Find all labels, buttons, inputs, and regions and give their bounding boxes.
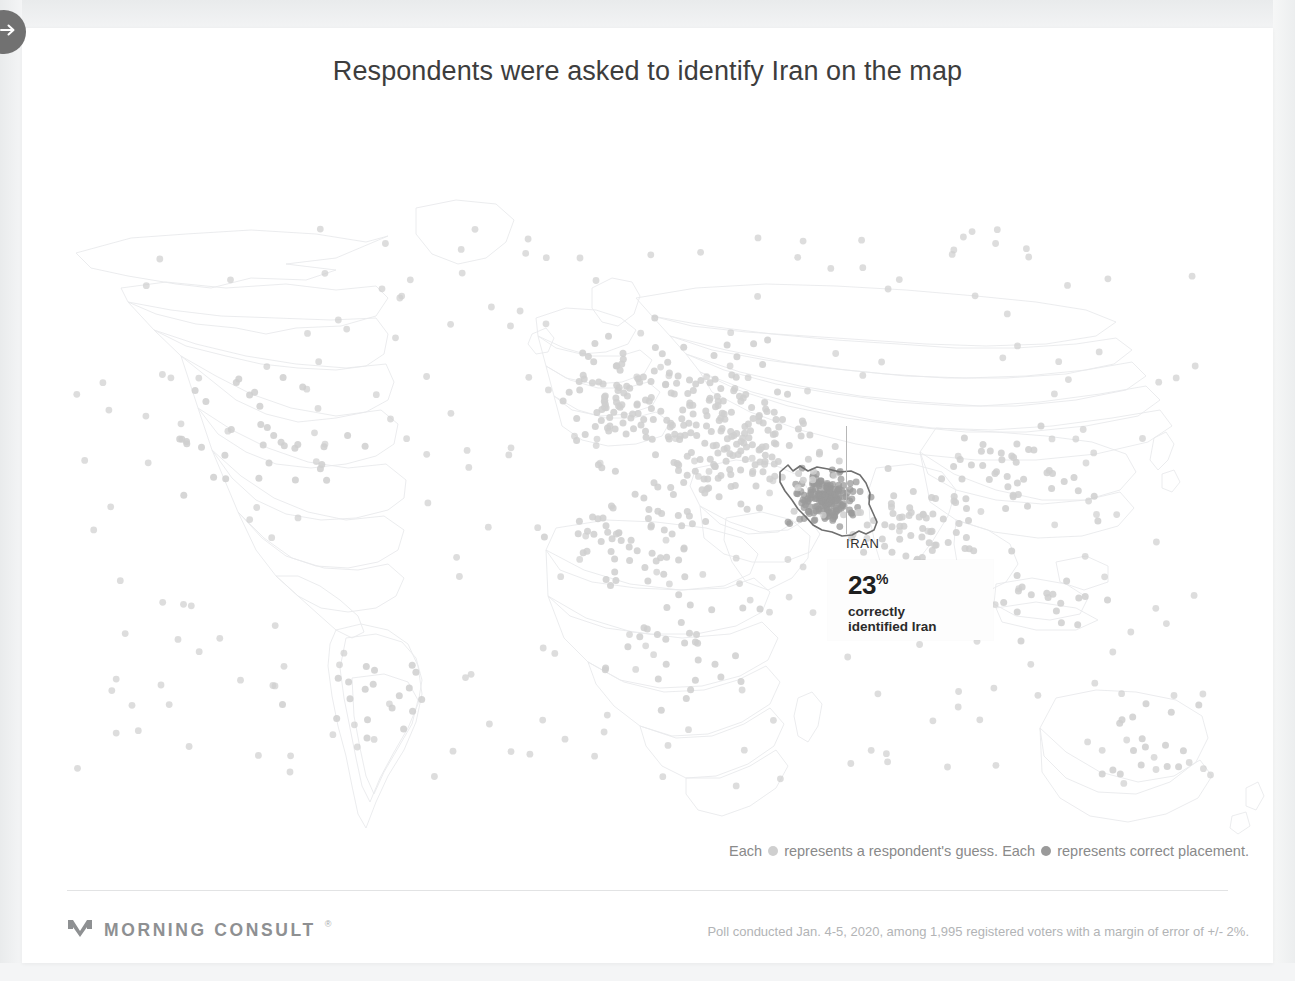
registered-mark: ®	[325, 919, 332, 929]
chart-card: Respondents were asked to identify Iran …	[22, 28, 1273, 963]
morning-consult-logo-icon	[67, 918, 93, 942]
footnote: Poll conducted Jan. 4-5, 2020, among 1,9…	[707, 924, 1249, 939]
stat-description-line2: identified Iran	[848, 619, 937, 634]
arrow-right-icon	[0, 20, 18, 44]
background-band-left	[0, 0, 22, 981]
footer-divider	[67, 890, 1228, 891]
legend-prefix: Each	[729, 843, 762, 859]
brand-lockup: MORNING CONSULT ®	[67, 918, 333, 942]
legend: Each represents a respondent's guess. Ea…	[729, 843, 1249, 859]
legend-correct-dot	[1041, 846, 1051, 856]
legend-text-guess: represents a respondent's guess. Each	[784, 843, 1035, 859]
stat-description: correctly identified Iran	[848, 604, 937, 634]
country-outlines	[76, 200, 1264, 834]
stat-callout-box: 23% correctly identified Iran	[828, 560, 993, 640]
background-band-top	[0, 0, 1295, 30]
stat-value: 23%	[848, 570, 888, 601]
background-band-right	[1273, 0, 1295, 981]
respondent-dots	[73, 226, 1214, 790]
brand-name: MORNING CONSULT	[104, 920, 316, 941]
percent-symbol: %	[876, 571, 888, 587]
annotation-leader-line	[846, 426, 847, 534]
map-svg	[36, 138, 1266, 838]
background-band-bottom	[0, 963, 1295, 981]
iran-country-label: IRAN	[846, 536, 879, 551]
footer: MORNING CONSULT ® Poll conducted Jan. 4-…	[22, 906, 1273, 956]
page-title: Respondents were asked to identify Iran …	[22, 56, 1273, 87]
legend-guess-dot	[768, 846, 778, 856]
slide-page: Respondents were asked to identify Iran …	[0, 0, 1295, 981]
legend-text-correct: represents correct placement.	[1057, 843, 1249, 859]
stat-description-line1: correctly	[848, 604, 905, 619]
stat-number: 23	[848, 570, 876, 600]
world-map	[36, 138, 1266, 838]
